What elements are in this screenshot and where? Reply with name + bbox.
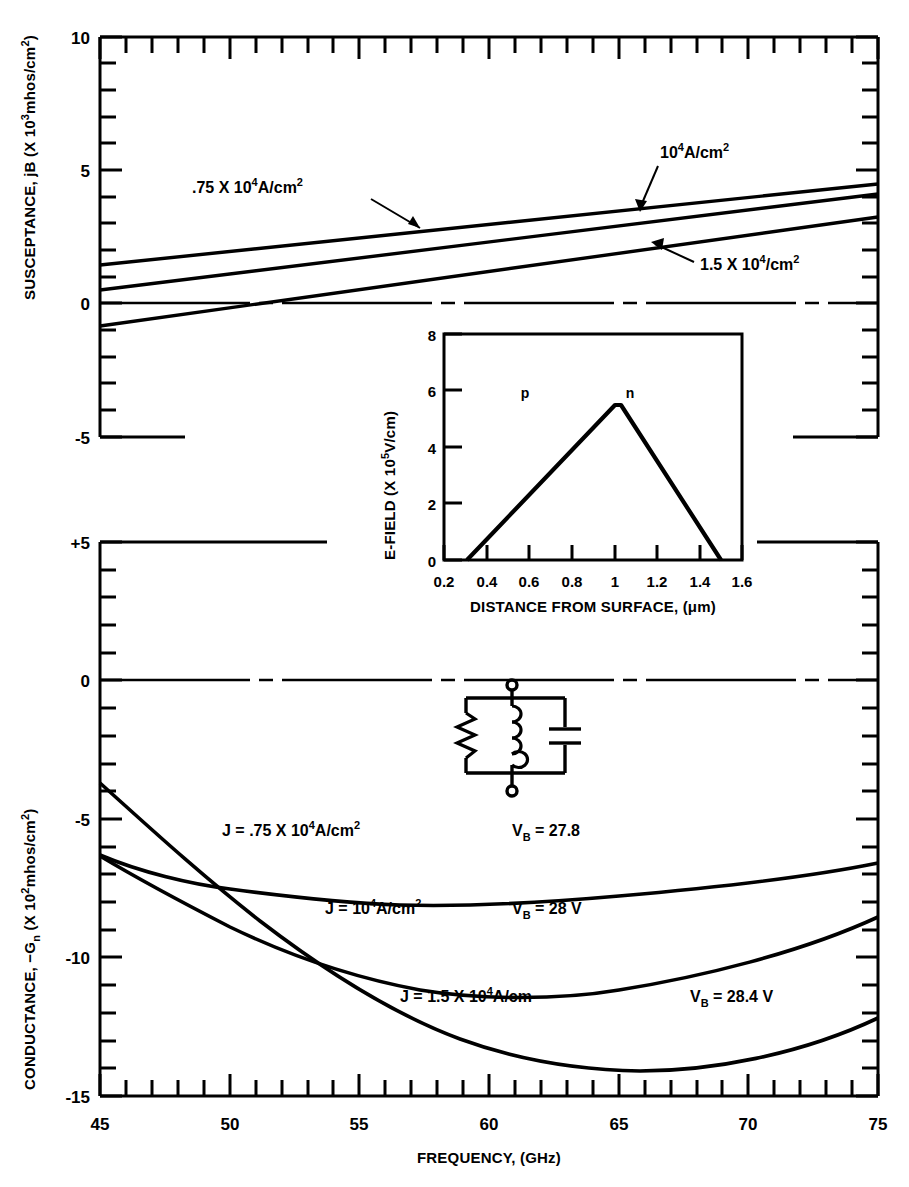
efield-xtick-3: 0.8	[562, 573, 583, 590]
terminal-bottom-icon	[507, 786, 517, 796]
efield-ytick-2: 2	[428, 496, 436, 513]
efield-y-axis-title: E-FIELD (X 105V/cm)	[379, 411, 398, 560]
conductance-curve-1e4	[100, 856, 878, 998]
conductance-ytick-0: 0	[81, 672, 90, 691]
capacitor-icon	[549, 729, 581, 743]
ann-075-text: .75 X 104A/cm2	[192, 176, 303, 196]
lbl-1e4-vb: VB = 28 V	[512, 900, 582, 921]
efield-xtick-2: 0.6	[519, 573, 540, 590]
circuit-inset	[457, 680, 581, 796]
conductance-x-axis-title: FREQUENCY, (GHz)	[417, 1149, 561, 1166]
efield-xtick-5: 1.2	[647, 573, 668, 590]
resistor-icon	[457, 713, 475, 758]
conductance-curves	[100, 783, 878, 1071]
lbl-15e4-j: J = 1.5 X 104A/cm	[400, 985, 532, 1005]
inductor-icon	[512, 706, 528, 768]
conductance-label-1e4: J = 104A/cm2 VB = 28 V	[325, 897, 582, 921]
lbl-075-j: J = .75 X 104A/cm2	[222, 819, 360, 839]
conductance-ytick-plus5: +5	[71, 534, 90, 553]
figure-svg: 10 5 0 -5 .75 X 104A/cm2 104A/cm2	[0, 0, 909, 1187]
susceptance-curve-1e4	[100, 194, 878, 290]
conductance-ytick-neg5: -5	[75, 811, 90, 830]
conductance-xtick-75: 75	[869, 1115, 888, 1134]
susceptance-annotation-075: .75 X 104A/cm2	[192, 176, 420, 228]
lbl-1e4-j: J = 104A/cm2	[325, 897, 421, 917]
conductance-label-075: J = .75 X 104A/cm2 VB = 27.8	[222, 819, 580, 843]
conductance-y-axis-title: CONDUCTANCE, −Gn (X 102mhos/cm2)	[19, 809, 42, 1090]
susceptance-annotation-15e4: 1.5 X 104/cm2	[651, 238, 799, 273]
terminal-top-icon	[507, 680, 517, 690]
efield-ytick-4: 4	[428, 440, 437, 457]
conductance-curve-15e4	[100, 783, 878, 1071]
conductance-chart: +5 0 -5 -10 -15 45 50 55 60 65 70 75 J =…	[19, 534, 887, 1166]
conductance-curve-075	[100, 855, 878, 906]
ann-1e4-text: 104A/cm2	[660, 141, 729, 161]
susceptance-y-ticks-right	[856, 37, 878, 437]
conductance-xtick-45: 45	[91, 1115, 110, 1134]
efield-xtick-0: 0.2	[434, 573, 455, 590]
efield-ytick-8: 8	[428, 327, 436, 344]
efield-ytick-0: 0	[428, 553, 436, 570]
efield-xtick-7: 1.6	[732, 573, 753, 590]
conductance-ytick-neg10: -10	[65, 949, 90, 968]
efield-xtick-1: 0.4	[477, 573, 499, 590]
susceptance-x-ticks	[100, 37, 878, 59]
lbl-075-vb: VB = 27.8	[512, 822, 580, 843]
susceptance-y-axis-title: SUSCEPTANCE, jB (X 103mhos/cm2)	[19, 35, 38, 300]
ann-075-arrowhead	[408, 216, 420, 228]
susceptance-ytick-0: 0	[81, 295, 90, 314]
efield-xtick-6: 1.4	[690, 573, 712, 590]
efield-inset-chart: 8 6 4 2 0 0.2 0.4 0.6 0.8 1 1.2 1.4 1.6 …	[379, 327, 752, 615]
conductance-xtick-65: 65	[610, 1115, 629, 1134]
conductance-label-15e4: J = 1.5 X 104A/cm VB = 28.4 V	[400, 985, 773, 1009]
efield-region-label-p: p	[521, 385, 530, 401]
susceptance-y-ticks	[100, 37, 122, 437]
efield-xtick-4: 1	[611, 573, 619, 590]
conductance-x-ticks	[100, 1074, 878, 1096]
lbl-15e4-vb: VB = 28.4 V	[690, 988, 773, 1009]
conductance-xtick-50: 50	[221, 1115, 240, 1134]
conductance-ytick-neg15: -15	[65, 1088, 90, 1107]
conductance-xtick-70: 70	[739, 1115, 758, 1134]
susceptance-ytick-10: 10	[71, 29, 90, 48]
susceptance-ytick-neg5: -5	[75, 429, 90, 448]
efield-ytick-6: 6	[428, 383, 436, 400]
conductance-axes	[100, 542, 878, 1096]
susceptance-curve-15e4	[100, 217, 878, 326]
figure-root: 10 5 0 -5 .75 X 104A/cm2 104A/cm2	[0, 0, 909, 1187]
susceptance-ytick-5: 5	[81, 162, 90, 181]
efield-region-label-n: n	[626, 385, 635, 401]
ann-15e4-text: 1.5 X 104/cm2	[700, 253, 799, 273]
efield-x-axis-title: DISTANCE FROM SURFACE, (μm)	[470, 598, 716, 615]
conductance-y-ticks-right	[856, 542, 878, 1096]
conductance-y-ticks	[100, 542, 122, 1096]
conductance-xtick-60: 60	[480, 1115, 499, 1134]
conductance-xtick-55: 55	[350, 1115, 369, 1134]
